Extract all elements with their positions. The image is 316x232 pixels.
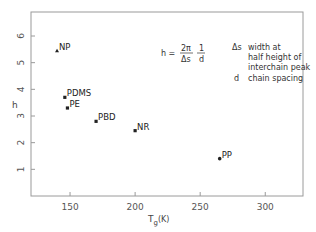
def-text-3: chain spacing [248,74,303,83]
y-tick-label: 4 [16,86,26,92]
def-text-0: width at [248,43,281,52]
data-point-label: PBD [98,112,116,122]
def-text-1: half height of [248,53,301,62]
x-tick-label: 300 [257,202,274,212]
data-point-label: PE [69,99,80,109]
y-tick-label: 1 [16,166,26,172]
y-tick-label: 5 [16,60,26,66]
data-point-label: NR [137,122,149,132]
y-axis-title: h [12,100,18,110]
formula-frac1-den: Δs [181,55,191,64]
x-tick-label: 200 [127,202,144,212]
x-axis-title: Tg(K) [147,214,169,227]
x-tick-label: 150 [61,202,78,212]
formula-frac1-num: 2π [181,44,191,53]
data-point-label: NP [59,42,70,52]
data-point-label: PDMS [67,88,91,98]
formula-frac2-den: d [199,55,204,64]
formula-lhs: h = [161,49,175,58]
y-tick-label: 6 [16,33,26,39]
scatter-chart: 123456 150200250300 NPPDMSPEPBDNRPP h Tg… [0,0,316,232]
formula-frac2-num: 1 [199,44,204,53]
x-axis-title-unit: (K) [158,215,170,224]
y-axis-ticks: 123456 [16,33,35,172]
def-symbol-0: Δs [232,43,242,52]
x-axis-ticks: 150200250300 [61,192,274,212]
def-symbol-3: d [234,74,239,83]
definitions-annotation: Δs width at half height of interchain pe… [232,43,311,83]
def-text-2: interchain peak [248,63,311,72]
formula-annotation: h = 2π Δs 1 d [161,44,205,64]
data-points: NPPDMSPEPBDNRPP [55,42,232,161]
data-point-label: PP [222,150,232,160]
y-tick-label: 3 [16,113,26,119]
x-tick-label: 250 [192,202,209,212]
y-tick-label: 2 [16,140,26,146]
